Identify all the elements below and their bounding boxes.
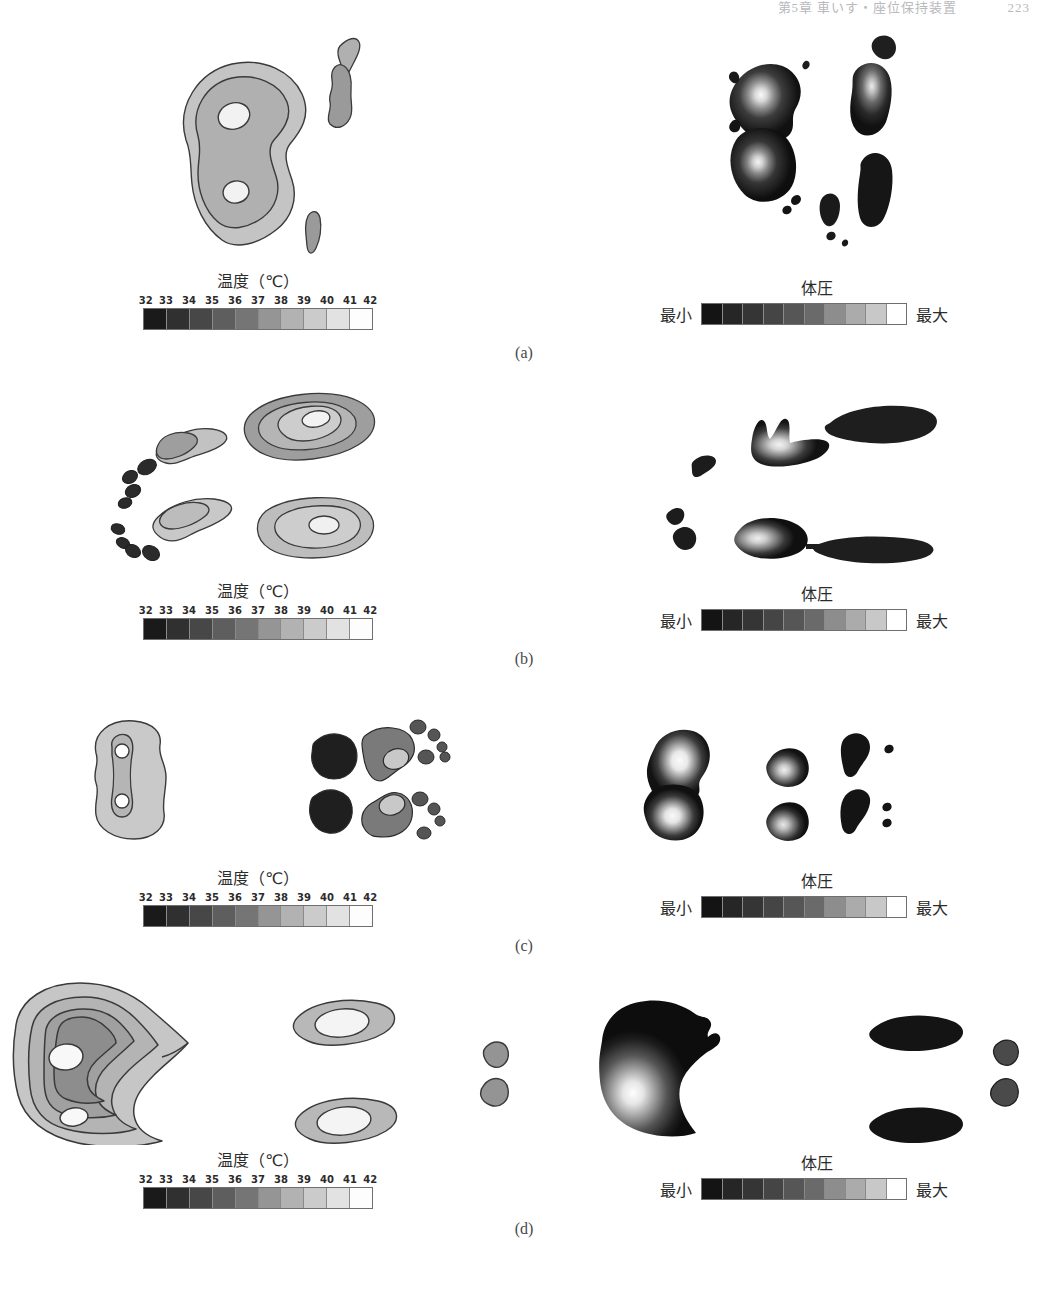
colorbar-segment-7 [304, 906, 327, 926]
pressure-max-label: 最大 [916, 302, 948, 326]
thermal-colorbar-gradient [143, 905, 373, 927]
panel-label-b: (b) [0, 650, 1048, 668]
colorbar-tick: 42 [363, 295, 377, 306]
colorbar-segment-8 [327, 1188, 350, 1208]
colorbar-tick: 37 [251, 295, 265, 306]
colorbar-segment-5 [259, 906, 282, 926]
colorbar-segment-9 [887, 610, 907, 630]
pressure-colorbar-title: 体圧 [714, 581, 920, 605]
colorbar-segment-8 [327, 309, 350, 329]
pressure-map-d [560, 969, 1040, 1149]
colorbar-tick: 33 [159, 295, 173, 306]
colorbar-segment-4 [784, 610, 805, 630]
thermal-colorbar-title: 温度（℃） [143, 865, 373, 889]
colorbar-segment-4 [784, 897, 805, 917]
colorbar-segment-5 [259, 309, 282, 329]
colorbar-segment-8 [866, 304, 887, 324]
colorbar-segment-3 [213, 619, 236, 639]
panel-b: 温度（℃） 3233343536373839404142 体圧 最小 最大 (b… [0, 385, 1048, 575]
colorbar-segment-7 [304, 309, 327, 329]
colorbar-segment-4 [784, 1179, 805, 1199]
colorbar-segment-7 [846, 1179, 867, 1199]
pressure-min-label: 最小 [660, 608, 692, 632]
colorbar-tick: 38 [274, 605, 288, 616]
colorbar-tick: 39 [297, 295, 311, 306]
colorbar-segment-4 [236, 1188, 259, 1208]
colorbar-segment-3 [764, 897, 785, 917]
thermal-map-d [2, 965, 522, 1149]
colorbar-tick: 38 [274, 1174, 288, 1185]
colorbar-segment-7 [846, 897, 867, 917]
thermal-colorbar-gradient [143, 308, 373, 330]
colorbar-segment-4 [236, 906, 259, 926]
colorbar-segment-5 [805, 610, 826, 630]
thermal-colorbar-b: 温度（℃） 3233343536373839404142 [143, 578, 373, 640]
thermal-colorbar-ticks: 3233343536373839404142 [143, 1174, 373, 1187]
colorbar-segment-7 [304, 619, 327, 639]
colorbar-segment-8 [327, 619, 350, 639]
thermal-colorbar-d: 温度（℃） 3233343536373839404142 [143, 1147, 373, 1209]
figure-page: 第5章 車いす・座位保持装置 223 [0, 0, 1048, 1303]
colorbar-segment-5 [805, 897, 826, 917]
colorbar-segment-6 [825, 1179, 846, 1199]
colorbar-tick: 36 [228, 892, 242, 903]
colorbar-tick: 37 [251, 1174, 265, 1185]
colorbar-tick: 39 [297, 892, 311, 903]
colorbar-tick: 40 [320, 892, 334, 903]
colorbar-tick: 41 [343, 605, 357, 616]
colorbar-segment-2 [743, 304, 764, 324]
colorbar-segment-7 [846, 304, 867, 324]
colorbar-segment-6 [825, 610, 846, 630]
colorbar-segment-0 [702, 610, 723, 630]
colorbar-segment-0 [144, 619, 167, 639]
pressure-max-label: 最大 [916, 1177, 948, 1201]
colorbar-tick: 33 [159, 1174, 173, 1185]
colorbar-segment-2 [190, 1188, 213, 1208]
colorbar-tick: 38 [274, 892, 288, 903]
thermal-colorbar-ticks: 3233343536373839404142 [143, 892, 373, 905]
pressure-map-b [630, 387, 970, 581]
colorbar-segment-6 [281, 309, 304, 329]
thermal-map-a [140, 28, 400, 267]
colorbar-segment-9 [350, 309, 372, 329]
thermal-colorbar-a: 温度（℃） 3233343536373839404142 [143, 268, 373, 330]
panel-c: 温度（℃） 3233343536373839404142 体圧 最小 最大 (c… [0, 705, 1048, 860]
colorbar-segment-8 [327, 906, 350, 926]
colorbar-tick: 33 [159, 605, 173, 616]
colorbar-segment-3 [764, 304, 785, 324]
colorbar-tick: 34 [182, 1174, 196, 1185]
pressure-min-label: 最小 [660, 302, 692, 326]
pressure-colorbar-title: 体圧 [714, 275, 920, 299]
colorbar-tick: 39 [297, 1174, 311, 1185]
colorbar-tick: 41 [343, 1174, 357, 1185]
pressure-map-c [620, 715, 980, 859]
colorbar-segment-0 [144, 906, 167, 926]
colorbar-segment-1 [167, 1188, 190, 1208]
colorbar-tick: 34 [182, 892, 196, 903]
colorbar-tick: 36 [228, 295, 242, 306]
colorbar-tick: 42 [363, 892, 377, 903]
thermal-map-b [100, 385, 440, 579]
colorbar-segment-6 [281, 619, 304, 639]
colorbar-segment-4 [236, 619, 259, 639]
colorbar-tick: 32 [139, 892, 153, 903]
colorbar-segment-9 [350, 1188, 372, 1208]
colorbar-tick: 40 [320, 605, 334, 616]
colorbar-segment-7 [304, 1188, 327, 1208]
colorbar-segment-3 [764, 610, 785, 630]
colorbar-segment-0 [702, 304, 723, 324]
pressure-colorbar-gradient [701, 896, 907, 918]
colorbar-segment-9 [887, 1179, 907, 1199]
colorbar-tick: 34 [182, 295, 196, 306]
colorbar-segment-8 [866, 610, 887, 630]
thermal-colorbar-title: 温度（℃） [143, 578, 373, 602]
colorbar-segment-3 [213, 906, 236, 926]
colorbar-segment-9 [887, 304, 907, 324]
colorbar-segment-2 [743, 610, 764, 630]
colorbar-segment-0 [144, 309, 167, 329]
colorbar-segment-1 [167, 906, 190, 926]
thermal-colorbar-gradient [143, 618, 373, 640]
colorbar-segment-8 [866, 1179, 887, 1199]
colorbar-segment-1 [723, 304, 744, 324]
colorbar-segment-9 [350, 619, 372, 639]
